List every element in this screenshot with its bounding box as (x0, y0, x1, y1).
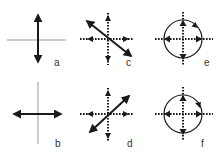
panel-label-c: c (126, 57, 131, 68)
arrowhead-left-icon (87, 111, 93, 117)
panel-label-f: f (201, 138, 204, 149)
panel-f: f (155, 87, 213, 149)
panel-a: a (7, 15, 66, 68)
arrowhead-up-icon (105, 90, 111, 96)
arrowhead-down-icon (105, 56, 111, 62)
panel-d: d (80, 88, 134, 149)
arrowhead-right-icon (196, 36, 202, 43)
panel-label-e: e (204, 57, 210, 68)
arrowhead-up-icon (180, 20, 187, 26)
arrowhead-down-icon (105, 133, 111, 139)
arrowhead-right-icon (196, 111, 202, 118)
polarization-diagram: a b c d e (0, 0, 220, 154)
arrowhead-left-icon (164, 111, 170, 118)
arrowhead-left-icon (87, 36, 93, 42)
arrowhead-left-icon (164, 36, 170, 43)
arrowhead-down-icon (180, 54, 187, 60)
panel-label-b: b (55, 138, 61, 149)
arrowhead-up-icon (180, 95, 187, 101)
arrowhead-right-icon (123, 111, 129, 117)
panel-b: b (14, 82, 61, 149)
clockwise-arrow-icon (195, 102, 201, 108)
arrowhead-right-icon (123, 36, 129, 42)
panel-c: c (80, 13, 134, 68)
panel-label-d: d (127, 138, 133, 149)
arrowhead-down-icon (180, 129, 187, 135)
arrowhead-up-icon (105, 15, 111, 21)
panel-label-a: a (54, 57, 60, 68)
panel-e: e (155, 12, 213, 68)
